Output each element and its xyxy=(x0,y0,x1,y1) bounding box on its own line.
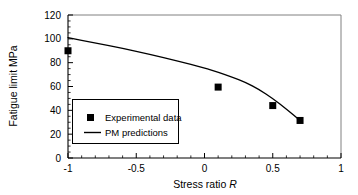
chart-figure: 020406080100120 -1-0.500.51 Experimental… xyxy=(0,0,358,195)
x-axis-title-symbol: R xyxy=(229,178,237,190)
x-tick-label: -1 xyxy=(64,163,73,174)
data-point-marker xyxy=(269,102,276,109)
x-axis-title: Stress ratio R xyxy=(173,178,237,190)
chart-background xyxy=(0,0,358,195)
legend-marker-square-icon xyxy=(87,114,94,121)
y-tick-label: 40 xyxy=(50,105,62,116)
x-axis-title-text: Stress ratio xyxy=(173,178,229,190)
y-tick-label: 0 xyxy=(55,153,61,164)
y-tick-label: 120 xyxy=(44,10,61,21)
legend-label-pm-predictions: PM predictions xyxy=(105,127,168,138)
y-tick-label: 100 xyxy=(44,33,61,44)
fatigue-limit-chart: 020406080100120 -1-0.500.51 Experimental… xyxy=(0,0,358,195)
y-tick-label: 60 xyxy=(50,81,62,92)
chart-legend: Experimental data PM predictions xyxy=(73,100,183,144)
data-point-marker xyxy=(65,47,72,54)
legend-label-experimental-data: Experimental data xyxy=(105,112,182,123)
data-point-marker xyxy=(215,84,222,91)
data-point-marker xyxy=(297,117,304,124)
y-tick-label: 20 xyxy=(50,129,62,140)
x-tick-label: -0.5 xyxy=(128,163,146,174)
x-tick-label: 1 xyxy=(338,163,344,174)
x-tick-label: 0.5 xyxy=(266,163,280,174)
x-tick-label: 0 xyxy=(202,163,208,174)
y-tick-label: 80 xyxy=(50,57,62,68)
y-axis-title: Fatigue limit MPa xyxy=(7,45,19,126)
